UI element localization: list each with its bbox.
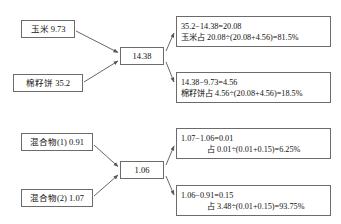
arrow-center-to-top-result-bottom — [166, 146, 174, 165]
calc-line-2: 棉籽饼占 4.56÷(20.08+4.56)=18.5% — [181, 88, 327, 99]
arrow-mix1-to-center — [94, 145, 118, 167]
calc-line-1: 1.06−0.91=0.15 — [181, 190, 327, 201]
node-center-value-top: 14.38 — [120, 47, 164, 65]
calc-box-cottonseed-share: 14.38−9.73=4.56 棉籽饼占 4.56÷(20.08+4.56)=1… — [176, 72, 331, 103]
calc-box-mixture-1-share: 1.07−1.06=0.01 占 0.01÷(0.01+0.15)=6.25% — [176, 128, 331, 159]
node-center-value-bottom: 1.06 — [120, 161, 164, 179]
calc-line-2: 占 3.48÷(0.01+0.15)=93.75% — [181, 201, 327, 212]
calc-box-corn-share: 35.2−14.38=20.08 玉米占 20.08÷(20.08+4.56)=… — [176, 16, 331, 47]
calc-line-2: 玉米占 20.08÷(20.08+4.56)=81.5% — [181, 32, 327, 43]
calc-box-mixture-2-share: 1.06−0.91=0.15 占 3.48÷(0.01+0.15)=93.75% — [176, 185, 331, 216]
node-input-cottonseed-cake: 棉籽饼 35.2 — [13, 74, 83, 92]
calc-line-1: 35.2−14.38=20.08 — [181, 21, 327, 32]
node-input-mixture-2: 混合物(2) 1.07 — [21, 189, 93, 207]
calc-line-2: 占 0.01÷(0.01+0.15)=6.25% — [181, 144, 327, 155]
diagram-canvas: 玉米 9.73 棉籽饼 35.2 14.38 35.2−14.38=20.08 … — [0, 0, 341, 224]
calc-line-1: 14.38−9.73=4.56 — [181, 77, 327, 88]
arrow-corn-to-center — [76, 31, 118, 53]
node-input-corn: 玉米 9.73 — [21, 20, 75, 38]
arrow-center-to-top-result — [166, 33, 174, 51]
arrow-mix2-to-center — [94, 175, 118, 196]
arrow-center-to-bottom-result — [166, 62, 174, 82]
arrow-center-to-bottom-result-bottom — [166, 176, 174, 195]
node-input-mixture-1: 混合物(1) 0.91 — [21, 133, 93, 151]
arrow-cotton-to-center — [84, 61, 118, 82]
calc-line-1: 1.07−1.06=0.01 — [181, 133, 327, 144]
